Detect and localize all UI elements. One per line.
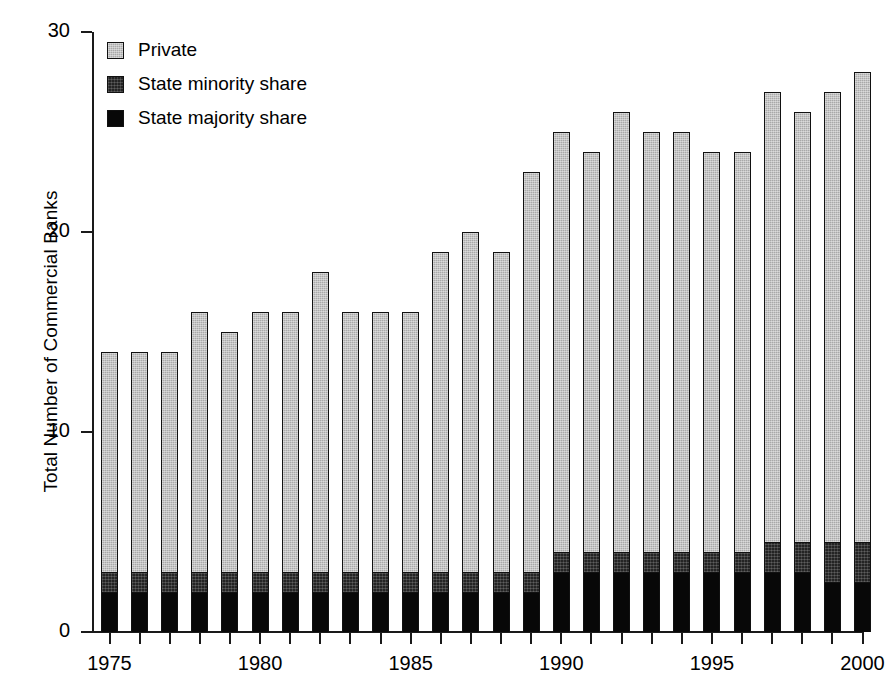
x-tick-label: 1985 [371,652,451,675]
x-tick-mark [831,633,833,644]
bar-segment [463,592,478,632]
legend-item-state-minority: State minority share [107,67,407,101]
bar-segment [283,572,298,592]
y-tick-label: 30 [10,19,70,41]
bar-segment [825,93,840,542]
y-tick-label: 10 [10,419,70,441]
x-tick-mark [621,633,623,644]
x-tick-mark [590,633,592,644]
bar-segment [855,542,870,582]
bar-segment [524,592,539,632]
bar-2000 [854,72,871,632]
bar-1975 [101,352,118,632]
x-tick-mark [651,633,653,644]
x-tick-mark [259,633,261,644]
bar-segment [253,592,268,632]
bar-1991 [583,152,600,632]
bar-segment [614,113,629,552]
bar-segment [765,542,780,572]
bar-segment [463,572,478,592]
x-tick-label: 1990 [521,652,601,675]
x-tick-label: 1980 [220,652,300,675]
x-tick-mark [440,633,442,644]
bar-segment [704,552,719,572]
bar-1980 [252,312,269,632]
x-tick-mark [862,633,864,644]
x-tick-mark [289,633,291,644]
legend-swatch-state-minority-icon [107,76,124,93]
bar-1978 [191,312,208,632]
bar-segment [825,582,840,632]
bar-segment [584,153,599,552]
bar-1988 [493,252,510,632]
x-tick-mark [229,633,231,644]
bar-1983 [342,312,359,632]
bar-segment [735,552,750,572]
legend-label-private: Private [138,39,197,61]
bar-1999 [824,92,841,632]
legend-label-state-majority: State majority share [138,107,307,129]
bar-segment [825,542,840,582]
bar-segment [494,592,509,632]
bar-segment [735,153,750,552]
x-tick-label: 1975 [70,652,150,675]
bar-segment [283,313,298,572]
x-tick-mark [801,633,803,644]
x-tick-mark [741,633,743,644]
bar-segment [855,73,870,542]
bar-segment [524,572,539,592]
bar-segment [795,113,810,542]
bar-segment [102,353,117,572]
bar-segment [283,592,298,632]
bar-segment [584,552,599,572]
bar-segment [162,353,177,572]
bar-1987 [462,232,479,632]
bar-segment [343,592,358,632]
bar-segment [373,313,388,572]
bar-segment [433,592,448,632]
bar-segment [313,592,328,632]
bar-1979 [221,332,238,632]
bar-segment [704,153,719,552]
x-tick-mark [169,633,171,644]
bar-segment [584,572,599,632]
legend-label-state-minority: State minority share [138,73,307,95]
bar-segment [192,572,207,592]
bar-1982 [312,272,329,632]
bar-segment [494,253,509,572]
bar-segment [795,572,810,632]
legend-item-state-majority: State majority share [107,101,407,135]
y-tick-mark [81,631,92,633]
bar-1998 [794,112,811,632]
x-tick-mark [560,633,562,644]
bar-segment [253,572,268,592]
bar-1976 [131,352,148,632]
x-tick-mark [410,633,412,644]
bar-segment [253,313,268,572]
x-tick-mark [470,633,472,644]
x-tick-mark [199,633,201,644]
x-tick-mark [681,633,683,644]
bar-segment [222,333,237,572]
legend-item-private: Private [107,33,407,67]
bar-segment [192,592,207,632]
bar-segment [765,93,780,542]
bar-segment [735,572,750,632]
bar-segment [644,133,659,552]
bar-1996 [734,152,751,632]
x-tick-mark [319,633,321,644]
bar-1994 [673,132,690,632]
x-tick-mark [139,633,141,644]
bar-segment [765,572,780,632]
bar-segment [162,592,177,632]
bar-segment [463,233,478,572]
x-tick-mark [711,633,713,644]
bar-segment [222,592,237,632]
bar-segment [674,552,689,572]
bar-segment [373,592,388,632]
bar-segment [132,592,147,632]
bar-segment [313,273,328,572]
bar-segment [433,572,448,592]
bar-segment [494,572,509,592]
